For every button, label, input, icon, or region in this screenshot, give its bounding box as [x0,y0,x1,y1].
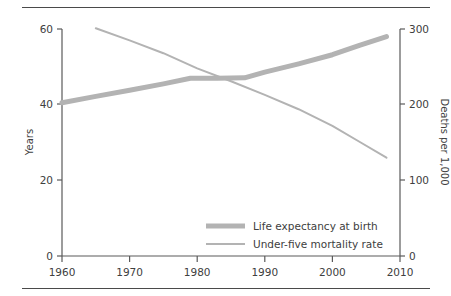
legend-label-life-expectancy: Life expectancy at birth [253,220,378,232]
chart-figure: 60 40 20 0 Years 300 200 100 0 Deaths pe… [0,0,451,296]
series-line-under-five-mortality-rate [96,28,387,157]
right-tick-label-200: 200 [409,98,429,110]
right-tick-label-300: 300 [409,23,429,35]
legend-label-under-five-mortality: Under-five mortality rate [253,238,383,250]
left-tick-label-40: 40 [40,98,53,110]
x-tick-label-1980: 1980 [184,266,211,278]
right-tick-label-100: 100 [409,174,429,186]
x-axis [62,256,400,262]
chart-legend: Life expectancy at birth Under-five mort… [206,220,383,250]
right-tick-label-0: 0 [409,250,416,262]
right-axis-title: Deaths per 1,000 [439,98,450,185]
x-tick-label-1990: 1990 [251,266,278,278]
x-tick-label-1970: 1970 [116,266,143,278]
left-tick-label-20: 20 [40,174,53,186]
line-chart-plot: 60 40 20 0 Years 300 200 100 0 Deaths pe… [0,0,451,296]
x-tick-label-1960: 1960 [49,266,76,278]
right-axis [400,29,405,256]
left-axis [57,29,62,256]
left-tick-label-60: 60 [40,23,53,35]
series-line-life-expectancy [62,37,386,103]
x-tick-label-2010: 2010 [387,266,414,278]
x-tick-label-2000: 2000 [319,266,346,278]
left-axis-title: Years [24,129,35,156]
left-tick-label-0: 0 [46,250,53,262]
